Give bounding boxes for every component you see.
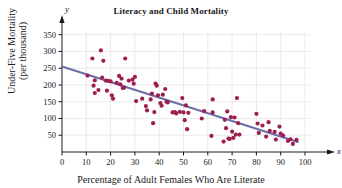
x-tick-label: 30	[125, 157, 145, 167]
x-axis-variable-name: x	[337, 146, 341, 156]
x-tick-label: 100	[295, 157, 315, 167]
x-tick-label: 90	[271, 157, 291, 167]
y-tick-label: 150	[34, 97, 56, 107]
x-tick-label: 40	[149, 157, 169, 167]
x-tick-label: 20	[101, 157, 121, 167]
chart-figure: Literacy and Child Mortality Under-Five …	[0, 0, 342, 188]
trend-line	[62, 67, 298, 142]
x-tick-label: 80	[246, 157, 266, 167]
x-tick-label: 0	[52, 157, 72, 167]
y-tick-label: 100	[34, 113, 56, 123]
y-tick-label: 350	[34, 30, 56, 40]
x-tick-label: 60	[198, 157, 218, 167]
x-tick-label: 50	[174, 157, 194, 167]
y-tick-label: 50	[34, 130, 56, 140]
y-tick-label: 300	[34, 46, 56, 56]
y-tick-label: 200	[34, 80, 56, 90]
y-axis-variable-name: y	[65, 4, 69, 14]
x-tick-label: 10	[76, 157, 96, 167]
y-tick-label: 250	[34, 63, 56, 73]
x-tick-label: 70	[222, 157, 242, 167]
